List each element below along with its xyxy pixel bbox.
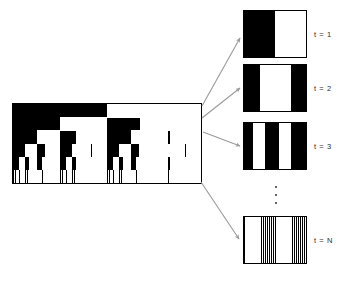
scale-panel-t2-label: t = 2 [314, 84, 332, 93]
arrow-to-t2 [202, 88, 240, 118]
ellipsis-dot [275, 202, 277, 204]
figure-root: t = 1 t = 2 t = 3 t = N [0, 0, 355, 285]
scale-panel-t2-bands [244, 65, 306, 111]
recursive-binary-tree-diagram [12, 103, 202, 184]
scale-panel-t1-label: t = 1 [314, 30, 332, 39]
scale-panel-t3 [243, 122, 307, 170]
scale-panel-tn-label: t = N [314, 236, 333, 245]
arrow-to-t3 [203, 132, 240, 146]
arrow-to-t1 [202, 38, 240, 106]
scale-panel-t1-bands [244, 11, 306, 57]
arrow-to-tn [201, 182, 239, 239]
scale-panel-t3-label: t = 3 [314, 142, 332, 151]
scale-panel-tn [243, 216, 307, 264]
scale-panel-t1 [243, 10, 307, 58]
vertical-ellipsis-icon [272, 186, 280, 204]
scale-panel-t2 [243, 64, 307, 112]
ellipsis-dot [275, 194, 277, 196]
ellipsis-dot [275, 186, 277, 188]
scale-panel-t3-bands [244, 123, 306, 169]
scale-panel-tn-bands [244, 217, 306, 263]
tree-pattern-svg [13, 104, 201, 183]
